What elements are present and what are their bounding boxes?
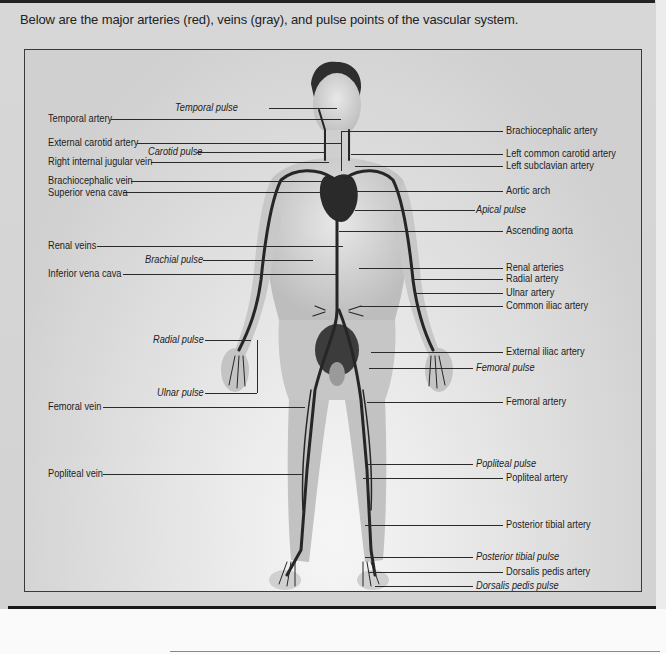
leader-left-common-carotid-artery [351, 154, 503, 155]
label-radial-pulse: Radial pulse [153, 333, 204, 345]
label-apical-pulse: Apical pulse [476, 203, 526, 215]
leader-femoral-artery [367, 402, 503, 403]
leader-posterior-tibial-pulse [365, 557, 473, 558]
label-ulnar-pulse: Ulnar pulse [157, 386, 204, 398]
label-popliteal-artery: Popliteal artery [506, 471, 568, 483]
label-temporal-pulse: Temporal pulse [175, 101, 238, 113]
label-right-internal-jugular-vein: Right internal jugular vein [48, 155, 152, 167]
leader-popliteal-vein [103, 474, 303, 475]
label-ascending-aorta: Ascending aorta [506, 224, 573, 236]
label-carotid-pulse: Carotid pulse [148, 145, 202, 157]
leader-popliteal-pulse [365, 464, 473, 465]
leader-dorsalis-pedis-artery [369, 572, 503, 573]
leader-ulnar-artery [415, 293, 503, 294]
leader-renal-arteries [359, 268, 503, 269]
leader-carotid-pulse [197, 152, 325, 153]
leader-radial-pulse [205, 340, 251, 341]
leader-external-iliac-artery [371, 352, 503, 353]
label-brachial-pulse: Brachial pulse [145, 253, 203, 265]
leader-femoral-vein [103, 407, 305, 408]
top-rule [0, 0, 655, 3]
leader-ascending-aorta [339, 231, 503, 232]
label-dorsalis-pedis-pulse: Dorsalis pedis pulse [476, 579, 559, 591]
label-left-common-carotid-artery: Left common carotid artery [506, 147, 616, 159]
label-femoral-artery: Femoral artery [506, 395, 566, 407]
leader-left-subclavian-artery [355, 166, 503, 167]
label-femoral-vein: Femoral vein [48, 400, 101, 412]
label-femoral-pulse: Femoral pulse [476, 361, 535, 373]
leader-external-carotid-artery [137, 143, 341, 144]
label-popliteal-pulse: Popliteal pulse [476, 457, 536, 469]
leader-femoral-pulse [369, 368, 473, 369]
leader-apical-pulse [355, 210, 475, 211]
label-radial-artery: Radial artery [506, 272, 558, 284]
label-temporal-artery: Temporal artery [48, 112, 112, 124]
label-posterior-tibial-pulse: Posterior tibial pulse [476, 550, 559, 562]
footer-thin-rule [170, 651, 660, 652]
leader-brachiocephalic-artery-vertical [341, 131, 342, 171]
leader-popliteal-artery [363, 478, 503, 479]
leader-temporal-artery [111, 119, 341, 120]
label-dorsalis-pedis-artery: Dorsalis pedis artery [506, 565, 590, 577]
label-left-subclavian-artery: Left subclavian artery [506, 159, 594, 171]
label-ulnar-artery: Ulnar artery [506, 286, 554, 298]
label-inferior-vena-cava: Inferior vena cava [48, 267, 121, 279]
label-posterior-tibial-artery: Posterior tibial artery [506, 518, 591, 530]
leader-posterior-tibial-artery [365, 525, 503, 526]
leader-inferior-vena-cava [123, 274, 337, 275]
leader-aortic-arch [347, 191, 503, 192]
leader-brachiocephalic-vein [131, 181, 331, 182]
leader-ulnar-pulse-vertical [257, 340, 258, 393]
page-edge [656, 0, 666, 609]
leader-brachiocephalic-artery [341, 131, 503, 132]
leader-right-internal-jugular-vein [151, 162, 329, 163]
page-footer-area [0, 609, 666, 654]
leader-brachial-pulse [203, 260, 313, 261]
label-brachiocephalic-vein: Brachiocephalic vein [48, 174, 133, 186]
label-brachiocephalic-artery: Brachiocephalic artery [506, 124, 597, 136]
label-popliteal-vein: Popliteal vein [48, 467, 103, 479]
leader-radial-artery [413, 279, 503, 280]
intro-caption: Below are the major arteries (red), vein… [20, 12, 518, 27]
label-common-iliac-artery: Common iliac artery [506, 299, 588, 311]
leader-ulnar-pulse [205, 393, 257, 394]
leader-superior-vena-cava [123, 192, 333, 193]
label-external-carotid-artery: External carotid artery [48, 136, 138, 148]
leader-common-iliac-artery [359, 306, 503, 307]
label-superior-vena-cava: Superior vena cava [48, 186, 128, 198]
label-renal-veins: Renal veins [48, 239, 96, 251]
leader-temporal-pulse [269, 108, 337, 109]
leader-renal-veins [97, 246, 343, 247]
label-external-iliac-artery: External iliac artery [506, 345, 585, 357]
label-aortic-arch: Aortic arch [506, 184, 550, 196]
leader-dorsalis-pedis-pulse [375, 586, 473, 587]
